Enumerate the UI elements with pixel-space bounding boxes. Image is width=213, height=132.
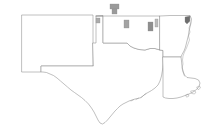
state-outline-new-mexico[interactable] bbox=[22, 15, 93, 72]
map-svg bbox=[0, 0, 213, 132]
county-highlight-ok-central[interactable] bbox=[124, 20, 129, 28]
county-highlight-ok-panhandle[interactable] bbox=[96, 18, 100, 23]
county-highlight-ok-border-north-1[interactable] bbox=[110, 4, 119, 9]
county-highlight-ok-east-2[interactable] bbox=[155, 19, 158, 27]
county-highlight-ok-border-north-2[interactable] bbox=[112, 9, 117, 14]
county-highlight-ok-east-1[interactable] bbox=[148, 22, 153, 31]
map-figure bbox=[0, 0, 213, 132]
